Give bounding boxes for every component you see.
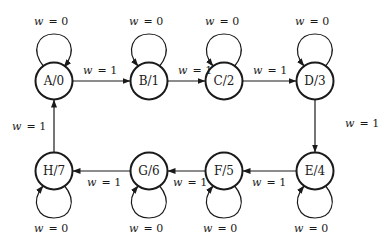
- state-H: H/7: [36, 153, 73, 190]
- state-diagram: A/0 B/1 C/2 D/3 E/4 F/5 G/6 H/7 w= 0 w= …: [0, 0, 392, 248]
- loop-label-B: w= 0: [129, 15, 163, 28]
- state-G-label: G/6: [138, 164, 159, 178]
- state-F-label: F/5: [214, 164, 234, 178]
- edge-label-G-H: w= 1: [87, 176, 121, 189]
- edge-label-A-B: w= 1: [83, 64, 117, 77]
- loop-label-C: w= 0: [205, 15, 239, 28]
- state-A: A/0: [36, 63, 73, 100]
- loop-label-E: w= 0: [294, 222, 328, 235]
- edge-label-E-F: w= 1: [252, 176, 286, 189]
- loop-label-F: w= 0: [203, 222, 237, 235]
- edge-label-H-A: w= 1: [12, 120, 46, 133]
- loop-label-A: w= 0: [34, 15, 68, 28]
- state-G: G/6: [131, 153, 168, 190]
- edge-label-B-C: w= 1: [178, 64, 212, 77]
- edge-label-C-D: w= 1: [253, 64, 287, 77]
- state-C-label: C/2: [214, 74, 235, 88]
- state-A-label: A/0: [43, 74, 64, 88]
- state-H-label: H/7: [43, 164, 65, 178]
- state-D: D/3: [297, 63, 334, 100]
- state-E-label: E/4: [305, 164, 326, 178]
- state-B-label: B/1: [139, 74, 160, 88]
- loop-label-D: w= 0: [295, 15, 329, 28]
- loop-label-H: w= 0: [34, 222, 68, 235]
- edge-label-D-E: w= 1: [345, 117, 379, 130]
- state-F: F/5: [206, 153, 243, 190]
- loop-label-G: w= 0: [129, 222, 163, 235]
- state-E: E/4: [297, 153, 334, 190]
- edge-label-F-G: w= 1: [173, 176, 207, 189]
- state-B: B/1: [131, 63, 168, 100]
- state-D-label: D/3: [304, 74, 325, 88]
